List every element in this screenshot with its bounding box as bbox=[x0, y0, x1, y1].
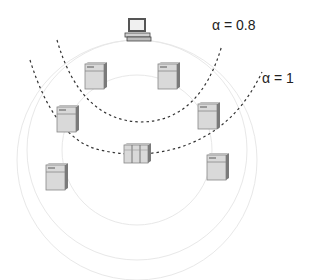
server-icon bbox=[158, 62, 180, 89]
diagram-canvas bbox=[0, 0, 312, 280]
computer-icon bbox=[125, 18, 151, 41]
server-cluster-icon bbox=[124, 143, 151, 163]
server-icon bbox=[85, 62, 107, 89]
server-icon bbox=[57, 105, 79, 132]
alpha-0.8-arc bbox=[57, 40, 222, 122]
alpha-1-label: α = 1 bbox=[262, 70, 294, 86]
server-icon bbox=[198, 102, 220, 129]
server-icon bbox=[46, 163, 68, 190]
server-icon bbox=[207, 153, 229, 180]
alpha-0.8-label: α = 0.8 bbox=[212, 17, 256, 33]
network-diagram: α = 0.8 α = 1 bbox=[0, 0, 312, 280]
alpha-arcs bbox=[30, 40, 262, 154]
